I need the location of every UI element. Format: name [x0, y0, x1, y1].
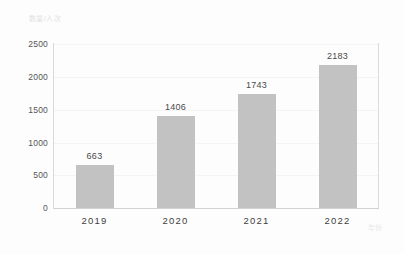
bar-2022[interactable] — [319, 65, 357, 208]
y-tick-label-1500: 1500 — [2, 105, 48, 115]
bar-value-2020: 1406 — [165, 102, 186, 112]
x-axis-title: 年份 — [368, 222, 383, 232]
y-axis-ticks: 2500 2000 1500 1000 500 0 — [0, 44, 48, 208]
bar-slot-2021: 1743 — [216, 44, 297, 208]
bar-slot-2020: 1406 — [135, 44, 216, 208]
y-tick-label-0: 0 — [2, 203, 48, 213]
y-axis-title: 数量/人次 — [29, 13, 61, 23]
x-tick-label-2020: 2020 — [163, 215, 189, 226]
bar-slot-2019: 663 — [54, 44, 135, 208]
bar-value-2021: 1743 — [246, 80, 267, 90]
bar-group: 663 1406 1743 2183 — [54, 44, 378, 208]
bar-value-2022: 2183 — [327, 51, 348, 61]
bar-chart-screenshot: 数量/人次 2500 2000 1500 1000 500 0 663 1406… — [0, 0, 404, 254]
bar-2021[interactable] — [238, 94, 276, 208]
y-tick-label-1000: 1000 — [2, 138, 48, 148]
right-border-line — [378, 43, 379, 209]
x-tick-label-2021: 2021 — [244, 215, 270, 226]
x-axis-line — [54, 208, 379, 209]
bar-2019[interactable] — [76, 165, 114, 208]
y-tick-label-2500: 2500 — [2, 39, 48, 49]
x-tick-label-2022: 2022 — [325, 215, 351, 226]
x-tick-label-2019: 2019 — [82, 215, 108, 226]
bar-2020[interactable] — [157, 116, 195, 208]
bar-slot-2022: 2183 — [297, 44, 378, 208]
y-tick-label-500: 500 — [2, 170, 48, 180]
y-tick-label-2000: 2000 — [2, 72, 48, 82]
x-axis-ticks: 2019 2020 2021 2022 — [54, 215, 378, 231]
bar-value-2019: 663 — [87, 151, 103, 161]
